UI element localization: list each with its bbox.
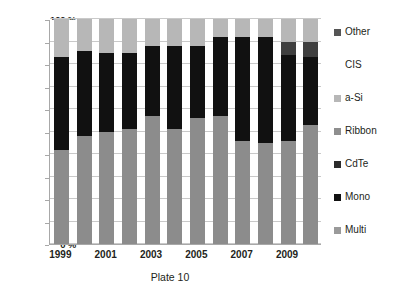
legend-item-cis[interactable]: CIS [334,59,362,71]
legend-label: Multi [345,224,366,236]
bar-segment-a-si [99,19,114,53]
x-axis-tick-label: 2009 [257,249,317,260]
bar-segment-mono [235,37,250,141]
bar-2010 [303,19,318,244]
bar-2000 [77,19,92,244]
chart-title: Plate 10 [0,271,340,283]
bar-segment-a-si [190,19,205,46]
bar-2007 [235,19,250,244]
bar-segment-multi [190,118,205,244]
legend-label: Mono [345,191,370,203]
bar-segment-cdte [303,42,318,58]
bar-2004 [167,19,182,244]
legend-item-other[interactable]: Other [334,26,370,38]
bar-segment-multi [303,125,318,244]
bar-segment-mono [167,46,182,129]
bar-2006 [213,19,228,244]
bar-segment-mono [99,53,114,132]
bar-1999 [54,19,69,244]
bar-segment-mono [213,37,228,116]
bar-segment-a-si [235,19,250,37]
bar-segment-a-si [303,19,318,42]
bar-segment-mono [145,46,160,116]
legend-swatch-icon [334,128,341,135]
bar-2005 [190,19,205,244]
bar-segment-multi [213,116,228,244]
legend-label: CdTe [345,158,368,170]
bar-segment-mono [122,53,137,130]
bar-segment-multi [54,150,69,245]
bar-segment-cdte [281,42,296,56]
legend-item-a-si[interactable]: a-Si [334,92,363,104]
y-axis-tick-mark [45,245,49,246]
bar-segment-multi [99,132,114,245]
bar-2001 [99,19,114,244]
bar-segment-a-si [145,19,160,46]
bar-segment-mono [258,37,273,143]
bar-segment-a-si [213,19,228,37]
legend-label: a-Si [345,92,363,104]
bar-segment-multi [122,129,137,244]
bar-segment-mono [303,57,318,125]
bar-segment-a-si [167,19,182,46]
bar-segment-mono [54,57,69,149]
legend-item-mono[interactable]: Mono [334,191,370,203]
legend-item-ribbon[interactable]: Ribbon [334,125,377,137]
bar-2002 [122,19,137,244]
legend-swatch-icon [334,161,341,168]
bar-segment-multi [145,116,160,244]
bar-2008 [258,19,273,244]
bar-segment-a-si [77,19,92,51]
bar-segment-mono [281,55,296,141]
bar-segment-multi [167,129,182,244]
legend-label: Ribbon [345,125,377,137]
stacked-bar-chart: 0 %10 %20 %30 %40 %50 %60 %70 %80 %90 %1… [0,0,400,301]
bar-segment-a-si [281,19,296,42]
legend-item-multi[interactable]: Multi [334,224,366,236]
legend-swatch-icon [334,95,341,102]
bar-segment-a-si [122,19,137,53]
bar-segment-mono [190,46,205,118]
legend-label: CIS [345,59,362,71]
bar-segment-multi [258,143,273,244]
bar-segment-a-si [258,19,273,37]
legend-item-cdte[interactable]: CdTe [334,158,368,170]
bar-segment-mono [77,51,92,137]
bar-2003 [145,19,160,244]
bar-2009 [281,19,296,244]
legend-swatch-icon [334,29,341,36]
plot-area [49,20,321,245]
bar-segment-multi [77,136,92,244]
legend-swatch-icon [334,194,341,201]
legend-label: Other [345,26,370,38]
bar-segment-a-si [54,19,69,57]
bar-segment-multi [281,141,296,245]
legend-swatch-icon [334,227,341,234]
bar-segment-multi [235,141,250,245]
